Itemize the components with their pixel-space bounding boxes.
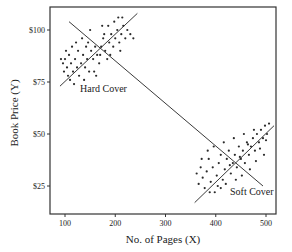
data-point <box>229 164 231 166</box>
data-point <box>255 160 257 162</box>
data-point <box>262 137 264 139</box>
y-axis-label: Book Price (Y) <box>8 79 21 147</box>
data-point <box>118 41 120 43</box>
data-point <box>102 37 104 39</box>
data-point <box>124 37 126 39</box>
data-point <box>109 54 111 56</box>
data-point <box>243 133 245 135</box>
data-point <box>253 129 255 131</box>
data-point <box>201 158 203 160</box>
data-point <box>121 16 123 18</box>
scatter-chart: 100200300400500 $25$50$75$100 No. of Pag… <box>0 0 292 252</box>
data-point <box>198 183 200 185</box>
data-point <box>99 54 101 56</box>
data-point <box>78 75 80 77</box>
data-point <box>73 83 75 85</box>
data-point <box>75 41 77 43</box>
data-point <box>80 62 82 64</box>
data-point <box>208 158 210 160</box>
data-point <box>98 62 100 64</box>
data-point <box>214 191 216 193</box>
soft-cover-label: Soft Cover <box>230 186 274 197</box>
x-tick-label: 300 <box>160 219 172 228</box>
data-point <box>96 54 98 56</box>
data-point <box>242 150 244 152</box>
data-point <box>202 177 204 179</box>
data-point <box>120 33 122 35</box>
data-point <box>85 46 87 48</box>
overall-trend-line <box>69 22 263 186</box>
data-point <box>84 66 86 68</box>
data-point <box>217 185 219 187</box>
x-tick-label: 500 <box>260 219 272 228</box>
data-point <box>88 71 90 73</box>
data-point <box>220 154 222 156</box>
data-point <box>250 145 252 147</box>
data-point <box>67 75 69 77</box>
data-point <box>259 147 261 149</box>
data-point <box>241 175 243 177</box>
x-tick-label: 100 <box>59 219 71 228</box>
data-point <box>235 179 237 181</box>
data-point <box>258 141 260 143</box>
data-point <box>108 41 110 43</box>
data-point <box>213 145 215 147</box>
data-point <box>95 75 97 77</box>
data-point <box>234 154 236 156</box>
data-point <box>244 162 246 164</box>
data-point <box>93 71 95 73</box>
data-point <box>254 150 256 152</box>
data-point <box>77 50 79 52</box>
data-point <box>223 141 225 143</box>
data-point <box>212 166 214 168</box>
data-point <box>60 58 62 60</box>
data-point <box>90 50 92 52</box>
data-points <box>60 16 270 193</box>
data-point <box>239 156 241 158</box>
fit-lines <box>60 13 274 202</box>
data-point <box>86 58 88 60</box>
data-point <box>240 158 242 160</box>
data-point <box>64 58 66 60</box>
data-point <box>264 125 266 127</box>
data-point <box>113 21 115 23</box>
data-point <box>94 46 96 48</box>
data-point <box>204 187 206 189</box>
data-point <box>72 71 74 73</box>
data-point <box>126 29 128 31</box>
data-point <box>228 150 230 152</box>
data-point <box>89 29 91 31</box>
data-point <box>62 62 64 64</box>
data-point <box>196 172 198 174</box>
data-point <box>266 133 268 135</box>
data-point <box>81 37 83 39</box>
data-point <box>68 54 70 56</box>
y-tick-label: $75 <box>33 78 45 87</box>
data-point <box>209 191 211 193</box>
data-point <box>82 54 84 56</box>
data-point <box>122 25 124 27</box>
data-point <box>132 37 134 39</box>
data-point <box>76 66 78 68</box>
x-axis-label: No. of Pages (X) <box>126 233 201 246</box>
data-point <box>63 71 65 73</box>
data-point <box>238 145 240 147</box>
data-point <box>263 154 265 156</box>
y-tick-label: $50 <box>33 130 45 139</box>
data-point <box>70 62 72 64</box>
data-point <box>107 25 109 27</box>
data-point <box>206 170 208 172</box>
data-point <box>233 137 235 139</box>
data-point <box>256 133 258 135</box>
x-tick-label: 200 <box>109 219 121 228</box>
data-point <box>65 50 67 52</box>
data-point <box>236 166 238 168</box>
data-point <box>110 33 112 35</box>
data-point <box>100 46 102 48</box>
hard-cover-label: Hard Cover <box>80 83 128 94</box>
data-point <box>230 172 232 174</box>
data-point <box>71 46 73 48</box>
data-point <box>66 66 68 68</box>
data-point <box>116 29 118 31</box>
data-point <box>112 46 114 48</box>
